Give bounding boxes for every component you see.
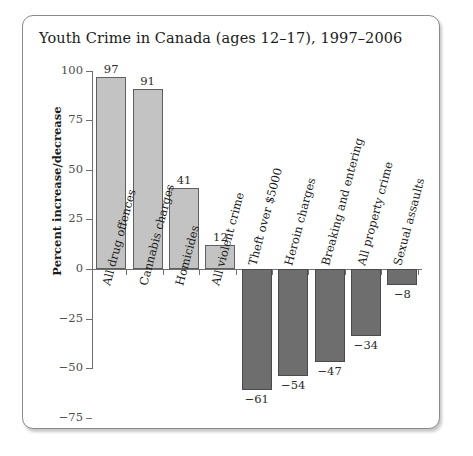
x-tick-mark [272, 269, 273, 275]
bar-value-label: −54 [266, 378, 320, 392]
y-tick-label: 25 [41, 213, 83, 225]
bar-value-label: −61 [230, 392, 284, 406]
category-label: All property crime [354, 160, 395, 267]
bar-value-label: −34 [339, 338, 393, 352]
x-tick-mark [418, 269, 419, 275]
y-tick-label: −75 [41, 412, 83, 424]
bar [278, 269, 308, 376]
y-tick-mark [86, 418, 92, 419]
y-tick-mark [86, 319, 92, 320]
category-label: Sexual assaults [391, 177, 428, 267]
y-tick-mark [86, 368, 92, 369]
x-tick-mark [381, 269, 382, 275]
y-tick-label: 100 [41, 65, 83, 77]
bar-value-label: −8 [375, 287, 429, 301]
y-tick-mark [86, 219, 92, 220]
category-label: Theft over $5000 [245, 166, 285, 267]
bar-chart-plot: Percent increase/decrease 1007550250−25−… [23, 16, 441, 430]
y-tick-label: 0 [41, 263, 83, 275]
bar [351, 269, 381, 336]
x-tick-mark [345, 269, 346, 275]
x-tick-mark [126, 269, 127, 275]
x-tick-mark [308, 269, 309, 275]
bar-value-label: −47 [303, 364, 357, 378]
y-tick-label: 50 [41, 164, 83, 176]
y-tick-label: −25 [41, 313, 83, 325]
y-tick-mark [86, 120, 92, 121]
y-tick-mark [86, 269, 92, 270]
bar [387, 269, 417, 285]
y-tick-label: 75 [41, 114, 83, 126]
chart-card: Youth Crime in Canada (ages 12–17), 1997… [22, 15, 440, 429]
y-axis-line [92, 71, 93, 369]
y-tick-mark [86, 170, 92, 171]
bar-value-label: 91 [121, 74, 175, 88]
x-tick-mark [236, 269, 237, 275]
category-label: Heroin charges [282, 176, 319, 267]
x-tick-mark [199, 269, 200, 275]
y-tick-label: −50 [41, 362, 83, 374]
x-tick-mark [163, 269, 164, 275]
bar [242, 269, 272, 390]
